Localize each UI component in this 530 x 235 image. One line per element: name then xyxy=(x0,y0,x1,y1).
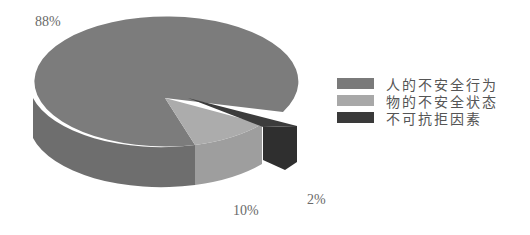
legend-swatch xyxy=(337,78,374,89)
label-88-percent: 88% xyxy=(35,14,61,30)
legend-item-human-behavior: 人的不安全行为 xyxy=(337,75,498,92)
legend-swatch xyxy=(337,95,374,106)
label-2-percent: 2% xyxy=(307,192,326,208)
legend: 人的不安全行为 物的不安全状态 不可抗拒因素 xyxy=(337,75,498,126)
legend-item-object-state: 物的不安全状态 xyxy=(337,92,498,109)
legend-item-force-majeure: 不可抗拒因素 xyxy=(337,109,498,126)
legend-swatch xyxy=(337,112,374,123)
legend-label: 不可抗拒因素 xyxy=(386,108,482,128)
label-10-percent: 10% xyxy=(233,203,259,219)
slice-side-force-majeure xyxy=(263,126,297,170)
